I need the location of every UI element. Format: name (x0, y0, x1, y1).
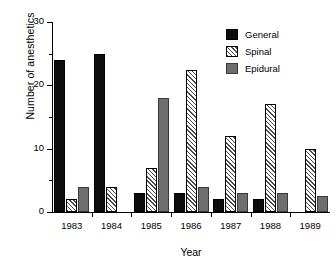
bar-spinal-1986 (186, 70, 197, 213)
bar-general-1985 (134, 193, 145, 212)
x-tick-1989 (290, 212, 291, 217)
y-tick-label-20: 20 (33, 78, 44, 89)
x-tick-1984 (92, 212, 93, 217)
x-tick-label-1987: 1987 (211, 220, 251, 231)
bar-spinal-1988 (265, 104, 276, 212)
legend-swatch-general-icon (226, 29, 238, 40)
x-tick-label-1988: 1988 (250, 220, 290, 231)
x-tick-label-1983: 1983 (52, 220, 92, 231)
y-tick-label-30: 30 (33, 15, 44, 26)
bar-spinal-1983 (66, 199, 77, 212)
x-tick-1985 (131, 212, 132, 217)
x-tick-label-1984: 1984 (92, 220, 132, 231)
legend-swatch-spinal-icon (226, 46, 238, 57)
x-tick-1988 (251, 212, 252, 217)
x-axis-title: Year (52, 246, 330, 258)
bar-general-1984 (94, 54, 105, 212)
x-tick-label-1986: 1986 (171, 220, 211, 231)
legend-item-spinal: Spinal (226, 44, 280, 59)
legend-item-general: General (226, 27, 280, 42)
legend-label-spinal: Spinal (245, 46, 271, 57)
legend-label-epidural: Epidural (245, 63, 280, 74)
bar-spinal-1984 (106, 187, 117, 212)
chart-legend: General Spinal Epidural (226, 27, 280, 78)
x-tick-label-1985: 1985 (131, 220, 171, 231)
plot-area: 0102030 1983198419851986198719881989 Gen… (52, 22, 330, 212)
legend-label-general: General (245, 29, 279, 40)
y-tick-0: 0 (47, 212, 52, 213)
x-tick-label-1989: 1989 (290, 220, 330, 231)
bar-epidural-1983 (78, 187, 89, 212)
bar-epidural-1989 (317, 196, 328, 212)
x-tick-1987 (211, 212, 212, 217)
bar-epidural-1985 (158, 98, 169, 212)
bar-spinal-1987 (225, 136, 236, 212)
x-tick-1986 (171, 212, 172, 217)
bar-chart-figure: Number of anesthetics Year 0102030 19831… (0, 0, 336, 270)
bar-spinal-1985 (146, 168, 157, 212)
bar-general-1983 (54, 60, 65, 212)
legend-swatch-epidural-icon (226, 63, 238, 74)
y-tick-label-10: 10 (33, 142, 44, 153)
bars-layer (52, 22, 330, 212)
bar-epidural-1988 (277, 193, 288, 212)
bar-general-1988 (253, 199, 264, 212)
legend-item-epidural: Epidural (226, 61, 280, 76)
y-tick-label-0: 0 (39, 205, 44, 216)
bar-general-1987 (213, 199, 224, 212)
bar-spinal-1989 (305, 149, 316, 212)
bar-epidural-1986 (198, 187, 209, 212)
bar-general-1986 (174, 193, 185, 212)
bar-epidural-1987 (237, 193, 248, 212)
x-axis-line (52, 212, 330, 213)
